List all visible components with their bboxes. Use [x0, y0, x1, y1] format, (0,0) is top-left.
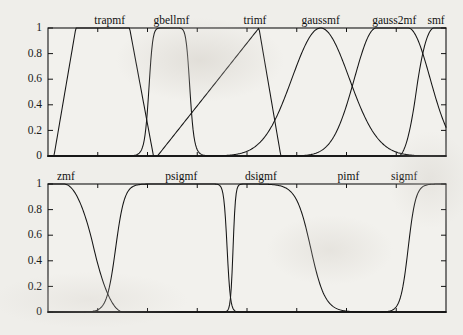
curve-label-gaussmf: gaussmf: [301, 14, 340, 27]
bottom-plot-svg: 00.20.40.60.81zmfpsigmfdsigmfpimfsigmf: [18, 168, 450, 318]
y-tick-label: 0: [36, 305, 42, 317]
y-tick-label: 1: [36, 177, 42, 189]
y-tick-label: 0.8: [28, 47, 43, 59]
y-tick-label: 0.4: [28, 254, 43, 266]
curve-label-psigmf: psigmf: [165, 170, 197, 183]
y-tick-label: 0.2: [28, 124, 43, 136]
y-tick-label: 0.4: [28, 98, 43, 110]
curve-label-zmf: zmf: [57, 170, 75, 182]
top-plot-svg: 00.20.40.60.81trapmfgbellmftrimfgaussmfg…: [18, 12, 450, 162]
curve-label-trapmf: trapmf: [94, 14, 125, 27]
y-tick-label: 0: [36, 149, 42, 161]
y-tick-label: 0.8: [28, 203, 43, 215]
y-tick-label: 0.6: [28, 228, 43, 240]
curve-label-sigmf: sigmf: [391, 170, 417, 183]
curve-label-trimf: trimf: [243, 14, 266, 26]
y-tick-label: 1: [36, 21, 42, 33]
curve-label-gauss2mf: gauss2mf: [372, 14, 416, 27]
curve-label-pimf: pimf: [338, 170, 360, 183]
bleedthrough-artifact-1: [14, 322, 17, 331]
plot-frame: [48, 28, 446, 156]
curve-label-dsigmf: dsigmf: [245, 170, 277, 183]
figure-page: 00.20.40.60.81trapmfgbellmftrimfgaussmfg…: [0, 0, 463, 335]
y-tick-label: 0.2: [28, 280, 43, 292]
y-tick-label: 0.6: [28, 72, 43, 84]
curve-label-smf: smf: [427, 14, 444, 26]
bottom-plot-panel: 00.20.40.60.81zmfpsigmfdsigmfpimfsigmf: [18, 168, 450, 318]
curve-label-gbellmf: gbellmf: [153, 14, 189, 27]
top-plot-panel: 00.20.40.60.81trapmfgbellmftrimfgaussmfg…: [18, 12, 450, 162]
